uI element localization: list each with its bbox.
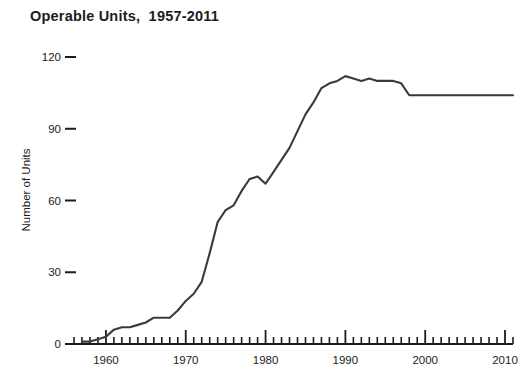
x-tick-labels: 196019701980199020002010 bbox=[93, 354, 518, 366]
x-axis-group: 196019701980199020002010 bbox=[74, 330, 518, 366]
x-tick-label: 2010 bbox=[492, 354, 518, 366]
y-tick-labels: 0306090120 bbox=[42, 51, 61, 350]
x-tick-label: 1980 bbox=[253, 354, 279, 366]
data-series-line bbox=[82, 76, 513, 341]
y-tick-label: 60 bbox=[48, 195, 61, 207]
y-tick-label: 90 bbox=[48, 123, 61, 135]
y-tick-label: 0 bbox=[55, 338, 61, 350]
x-tick-label: 2000 bbox=[412, 354, 438, 366]
x-tick-label: 1960 bbox=[93, 354, 119, 366]
chart-container: Operable Units, 1957-2011 0306090120 Num… bbox=[0, 0, 528, 389]
y-tick-marks bbox=[65, 57, 76, 344]
line-chart-plot: 0306090120 Number of Units 1960197019801… bbox=[0, 0, 528, 389]
y-tick-label: 120 bbox=[42, 51, 61, 63]
y-axis-group: 0306090120 Number of Units bbox=[20, 51, 76, 350]
x-tick-label: 1970 bbox=[173, 354, 199, 366]
y-tick-label: 30 bbox=[48, 266, 61, 278]
x-tick-label: 1990 bbox=[333, 354, 359, 366]
y-axis-title: Number of Units bbox=[20, 148, 32, 231]
x-minor-ticks bbox=[74, 337, 513, 344]
